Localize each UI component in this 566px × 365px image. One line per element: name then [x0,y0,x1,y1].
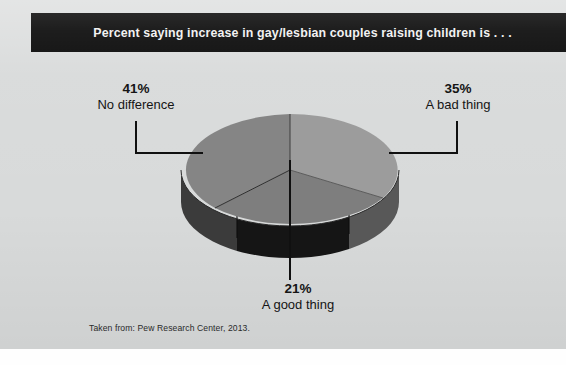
callout-good-thing-percent: 21% [218,281,378,297]
callout-good-thing-label: A good thing [218,297,378,312]
callout-bad-thing-percent: 35% [388,81,528,97]
source-note: Taken from: Pew Research Center, 2013. [89,323,250,333]
chart-stage: 41% No difference 35% A bad thing 21% A … [0,52,566,349]
callout-bad-thing: 35% A bad thing [388,81,528,112]
leader-line-bad-thing-horizontal [389,152,458,154]
leader-line-good-thing-vertical [289,160,291,280]
callout-no-difference: 41% No difference [66,81,206,112]
bottom-margin-strip [0,349,566,365]
callout-good-thing: 21% A good thing [218,281,378,312]
leader-line-bad-thing-vertical [456,121,458,154]
title-band: Percent saying increase in gay/lesbian c… [31,13,566,52]
leader-line-no-difference-vertical [135,121,137,154]
callout-no-difference-percent: 41% [66,81,206,97]
page-title: Percent saying increase in gay/lesbian c… [93,26,511,40]
leader-line-no-difference-horizontal [135,152,203,154]
figure-root: Percent saying increase in gay/lesbian c… [0,0,566,365]
callout-bad-thing-label: A bad thing [388,97,528,112]
callout-no-difference-label: No difference [66,97,206,112]
pie-top-faces [186,114,398,224]
